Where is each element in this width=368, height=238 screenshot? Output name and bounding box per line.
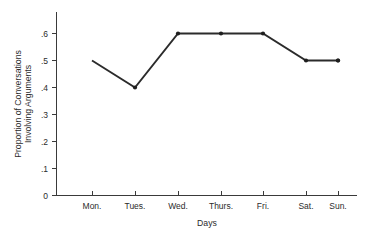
y-tick-label-1: .1 (41, 164, 48, 174)
y-tick-label-3: .3 (41, 110, 48, 120)
data-point-mon (133, 85, 137, 89)
y-tick-marks (52, 34, 57, 196)
x-tick-label-thurs: Thurs. (209, 201, 233, 211)
y-axis-title-line-2: Involving Arguments (23, 64, 33, 143)
data-point-tues (176, 31, 180, 35)
data-series-line (92, 34, 338, 88)
y-tick-label-4: .4 (41, 83, 48, 93)
x-tick-label-fri: Fri. (257, 201, 269, 211)
x-axis-title: Days (197, 218, 217, 228)
y-tick-label-5: .5 (41, 56, 48, 66)
data-point-fri (304, 58, 308, 62)
x-tick-label-wed: Wed. (168, 201, 188, 211)
y-tick-labels: 0 .1 .2 .3 .4 .5 .6 (41, 29, 48, 201)
y-axis-title: Proportion of Conversations Involving Ar… (13, 50, 33, 158)
x-tick-marks (93, 191, 339, 196)
y-axis-title-line-1: Proportion of Conversations (13, 50, 23, 158)
x-tick-labels: Mon. Tues. Wed. Thurs. Fri. Sat. Sun. (83, 201, 347, 211)
x-tick-label-sun: Sun. (329, 201, 347, 211)
data-point-wed (219, 31, 223, 35)
chart-figure: 0 .1 .2 .3 .4 .5 .6 Mon. Tues. Wed. Thur… (0, 0, 368, 238)
x-tick-label-mon: Mon. (83, 201, 102, 211)
data-point-sun (336, 58, 340, 62)
line-chart-canvas: 0 .1 .2 .3 .4 .5 .6 Mon. Tues. Wed. Thur… (0, 0, 368, 238)
x-tick-label-tues: Tues. (125, 201, 146, 211)
x-tick-label-sat: Sat. (298, 201, 313, 211)
y-tick-label-2: .2 (41, 137, 48, 147)
data-point-thurs (261, 31, 265, 35)
y-tick-label-6: .6 (41, 29, 48, 39)
y-tick-label-0: 0 (43, 191, 48, 201)
